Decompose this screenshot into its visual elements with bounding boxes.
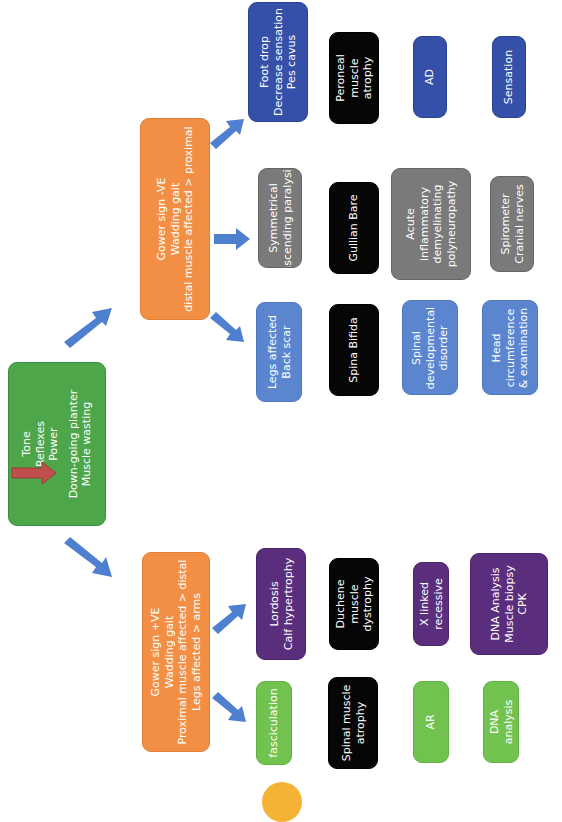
test-line: Sensation <box>502 50 516 104</box>
diagnosis-spinal-muscle-atrophy: Spinal muscle atrophy <box>328 677 378 769</box>
finding-line: Legs affected <box>266 315 280 389</box>
finding-line: Symmetrical <box>267 168 281 268</box>
test-sensation: Sensation <box>492 36 526 118</box>
detail-ar: AR <box>413 681 449 763</box>
branch-negative-line: Wadding gait <box>168 126 182 311</box>
detail-spinal-developmental-disorder: Spinal developmental disorder <box>402 300 458 395</box>
finding-line: Foot drop <box>258 8 272 116</box>
diagnosis-line: atrophy <box>361 54 375 102</box>
detail-line: polyneuropathy <box>445 181 459 268</box>
detail-acute-inflammatory-polyneuropathy: Acute inflammatory demyelinating polyneu… <box>391 168 471 280</box>
diagnosis-line: atrophy <box>353 685 367 762</box>
detail-line: inflammatory <box>418 181 432 268</box>
branch-negative-line: distal muscle affected > proximal <box>182 126 196 311</box>
branch-positive-text: Gower sign +VE Wadding gait Proximal mus… <box>149 560 203 745</box>
detail-text: Spinal developmental disorder <box>410 306 451 388</box>
finding-line: Decrease sensation <box>271 8 285 116</box>
diagnosis-text: Spina Bifida <box>347 317 361 382</box>
detail-text: Acute inflammatory demyelinating polyneu… <box>404 181 458 268</box>
root-line-planter: Down-going planter <box>67 390 81 499</box>
arrow-icon <box>210 600 250 636</box>
detail-line: demyelinating <box>431 181 445 268</box>
diagnosis-line: Duchene <box>334 576 348 631</box>
diagnosis-line: Gullian Bare <box>347 194 361 261</box>
finding-text: Lordosis Calf hypertrophy <box>268 558 295 650</box>
detail-text: AD <box>423 69 437 85</box>
down-arrow-icon <box>10 460 60 486</box>
detail-line: Acute <box>404 181 418 268</box>
test-line: & examination <box>517 307 531 387</box>
test-line: Spirometer <box>499 184 513 264</box>
arrow-to-negative-branch-icon <box>60 300 120 350</box>
finding-line: Lordosis <box>268 558 282 650</box>
diagnosis-line: Spinal muscle <box>340 685 354 762</box>
root-node: Tone Reflexes Power Down-going planter M… <box>8 362 106 526</box>
branch-positive-line: Proximal muscle affected > distal <box>176 560 190 745</box>
branch-gower-negative: Gower sign -VE Wadding gait distal muscl… <box>140 118 210 320</box>
diagnosis-line: dystrophy <box>361 576 375 631</box>
test-line: DNA <box>488 700 502 745</box>
arrow-to-positive-branch-icon <box>60 535 120 585</box>
finding-line: Pes cavus <box>285 8 299 116</box>
branch-positive-line: Gower sign +VE <box>149 560 163 745</box>
arrow-icon <box>212 228 252 250</box>
detail-text: AR <box>424 714 438 729</box>
diagnosis-line: muscle <box>347 54 361 102</box>
detail-line: recessive <box>431 578 445 630</box>
finding-symmetrical-paralysis: Symmetrical ascending paralysis <box>258 168 302 268</box>
test-line: CPK <box>516 565 530 643</box>
branch-positive-line: Legs affected > arms <box>190 560 204 745</box>
diagnosis-line: Peroneal <box>334 54 348 102</box>
test-line: Muscle biopsy <box>502 565 516 643</box>
test-line: analysis <box>501 700 515 745</box>
finding-text: Symmetrical ascending paralysis <box>267 168 294 268</box>
diagnosis-text: Spinal muscle atrophy <box>340 685 367 762</box>
test-text: Sensation <box>502 50 516 104</box>
test-text: Spirometer Cranial nerves <box>499 184 526 264</box>
finding-line: Back scar <box>279 315 293 389</box>
detail-line: X linked <box>418 578 432 630</box>
detail-text: X linked recessive <box>418 578 445 630</box>
finding-text: Foot drop Decrease sensation Pes cavus <box>258 8 299 116</box>
diagnosis-spina-bifida: Spina Bifida <box>329 304 379 396</box>
arrow-icon <box>210 690 250 726</box>
diagnosis-duchene-muscle-dystrophy: Duchene muscle dystrophy <box>329 558 379 650</box>
finding-legs-affected: Legs affected Back scar <box>256 302 302 402</box>
diagnosis-line: Spina Bifida <box>347 317 361 382</box>
branch-gower-positive: Gower sign +VE Wadding gait Proximal mus… <box>142 552 210 752</box>
finding-line: fasciculation <box>267 688 281 757</box>
test-text: DNA analysis <box>488 700 515 745</box>
test-line: DNA Analysis <box>489 565 503 643</box>
finding-foot-drop: Foot drop Decrease sensation Pes cavus <box>248 2 308 122</box>
test-spirometer-cranial-nerves: Spirometer Cranial nerves <box>490 176 534 272</box>
finding-lordosis-calf-hypertrophy: Lordosis Calf hypertrophy <box>256 548 306 660</box>
finding-text: fasciculation <box>267 688 281 757</box>
test-line: Head <box>490 307 504 387</box>
branch-positive-line: Wadding gait <box>163 560 177 745</box>
diagnosis-line: muscle <box>347 576 361 631</box>
finding-text: Legs affected Back scar <box>266 315 293 389</box>
test-line: circumference <box>503 307 517 387</box>
finding-line: ascending paralysis <box>280 168 294 268</box>
finding-line: Calf hypertrophy <box>281 558 295 650</box>
root-line-wasting: Muscle wasting <box>80 390 94 499</box>
test-dna-muscle-biopsy-cpk: DNA Analysis Muscle biopsy CPK <box>470 553 548 655</box>
test-text: Head circumference & examination <box>490 307 531 387</box>
test-dna-analysis: DNA analysis <box>483 681 519 763</box>
detail-line: disorder <box>437 306 451 388</box>
finding-fasciculation: fasciculation <box>256 681 292 765</box>
arrow-icon <box>208 310 248 346</box>
detail-line: Spinal <box>410 306 424 388</box>
test-text: DNA Analysis Muscle biopsy CPK <box>489 565 530 643</box>
test-head-circumference: Head circumference & examination <box>482 300 538 395</box>
diagnosis-text: Peroneal muscle atrophy <box>334 54 375 102</box>
detail-line: AD <box>423 69 437 85</box>
page-number-badge <box>262 782 302 822</box>
branch-negative-text: Gower sign -VE Wadding gait distal muscl… <box>155 126 196 311</box>
diagnosis-gullian-bare: Gullian Bare <box>329 182 379 274</box>
arrow-icon <box>208 115 248 151</box>
detail-line: developmental <box>423 306 437 388</box>
diagnosis-text: Duchene muscle dystrophy <box>334 576 375 631</box>
test-line: Cranial nerves <box>512 184 526 264</box>
detail-line: AR <box>424 714 438 729</box>
